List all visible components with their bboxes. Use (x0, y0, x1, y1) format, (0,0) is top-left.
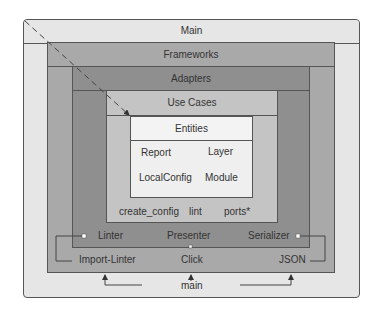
entity-layer: Layer (208, 146, 233, 157)
layer-main-title: Main (24, 25, 359, 36)
entity-module: Module (205, 172, 238, 183)
adapter-serializer: Serializer (248, 230, 290, 241)
usecase-create-config: create_config (119, 206, 179, 217)
usecase-ports: ports* (224, 206, 250, 217)
layer-entities-title: Entities (131, 123, 252, 134)
layer-use-cases-title: Use Cases (107, 97, 277, 108)
main-click: Click (181, 254, 203, 265)
main-import-linter: Import-Linter (79, 254, 136, 265)
main-json: JSON (279, 254, 306, 265)
layer-adapters-title: Adapters (73, 73, 309, 84)
layer-frameworks-title: Frameworks (48, 49, 334, 60)
entry-point-main: main (181, 280, 203, 291)
entity-report: Report (141, 147, 171, 158)
usecase-lint: lint (189, 206, 202, 217)
entity-localconfig: LocalConfig (139, 172, 192, 183)
adapter-linter: Linter (98, 230, 123, 241)
adapter-presenter: Presenter (167, 230, 210, 241)
